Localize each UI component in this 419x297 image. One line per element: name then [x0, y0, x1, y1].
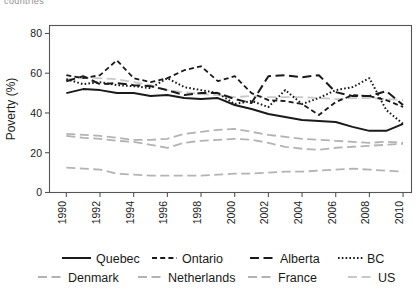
legend-item-netherlands[interactable]: Netherlands [138, 271, 235, 285]
legend-label-ontario: Ontario [182, 252, 223, 266]
legend-label-alberta: Alberta [280, 252, 320, 266]
y-axis-tick-label: 80 [30, 27, 42, 39]
x-axis-tick-label: 2010 [393, 201, 405, 225]
chart-svg: 020406080Poverty (%)19901992199419961998… [0, 0, 419, 297]
clipped-header-text: countries [4, 0, 44, 4]
y-axis-tick-label: 40 [30, 107, 42, 119]
legend-item-bc[interactable]: BC [338, 252, 384, 266]
legend-label-france: France [278, 271, 317, 285]
y-axis-tick-label: 20 [30, 147, 42, 159]
legend-label-denmark: Denmark [68, 271, 119, 285]
y-axis-tick-label: 0 [36, 186, 42, 198]
legend-item-quebec[interactable]: Quebec [62, 252, 140, 266]
x-axis-tick-label: 2006 [326, 201, 338, 225]
x-axis-tick-label: 2004 [292, 201, 304, 225]
series-line-france [66, 129, 403, 143]
plot-frame [50, 26, 412, 193]
x-axis-tick-label: 2002 [258, 201, 270, 225]
x-axis-tick-label: 2008 [359, 201, 371, 225]
legend-label-bc: BC [367, 252, 384, 266]
y-axis-tick-label: 60 [30, 67, 42, 79]
legend-label-us: US [378, 271, 395, 285]
x-axis-tick-label: 1996 [157, 201, 169, 225]
legend-label-netherlands: Netherlands [168, 271, 235, 285]
series-line-denmark [66, 168, 403, 176]
series-line-bc [66, 78, 403, 124]
series-line-netherlands [66, 136, 403, 150]
poverty-line-chart-figure: countries 020406080Poverty (%)1990199219… [0, 0, 419, 297]
x-axis-tick-label: 1990 [56, 201, 68, 225]
x-axis-tick-label: 2000 [225, 201, 237, 225]
series-line-alberta [66, 75, 403, 105]
legend-item-alberta[interactable]: Alberta [250, 252, 320, 266]
x-axis-tick-label: 1992 [90, 201, 102, 225]
legend-item-us[interactable]: US [348, 271, 395, 285]
y-axis-title: Poverty (%) [4, 78, 18, 141]
x-axis-tick-label: 1994 [124, 201, 136, 225]
legend-label-quebec: Quebec [96, 252, 140, 266]
legend-item-ontario[interactable]: Ontario [152, 252, 223, 266]
legend-item-france[interactable]: France [248, 271, 317, 285]
legend-item-denmark[interactable]: Denmark [38, 271, 119, 285]
x-axis-tick-label: 1998 [191, 201, 203, 225]
